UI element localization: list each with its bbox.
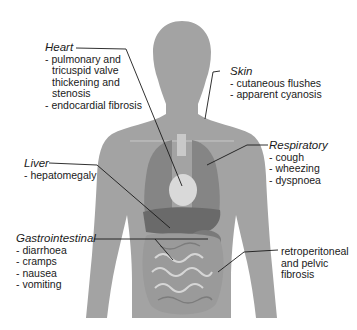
liver-title: Liver bbox=[24, 157, 96, 170]
gastrointestinal-symptom: - cramps bbox=[16, 256, 96, 268]
heart-symptom: - endocardial fibrosis bbox=[45, 100, 142, 112]
head-shape bbox=[153, 21, 211, 118]
anatomy-diagram: Heart - pulmonary and tricuspid valve th… bbox=[0, 0, 357, 330]
liver-symptom: - hepatomegaly bbox=[24, 170, 96, 182]
heart-label: Heart - pulmonary and tricuspid valve th… bbox=[45, 41, 142, 111]
retroperitoneal-text: retroperitoneal bbox=[281, 246, 349, 258]
respiratory-label: Respiratory - cough - wheezing - dyspnoe… bbox=[269, 139, 328, 186]
skin-leader bbox=[205, 71, 220, 119]
retroperitoneal-label: retroperitoneal and pelvic fibrosis bbox=[281, 246, 349, 281]
respiratory-symptom: - dyspnoea bbox=[269, 175, 328, 187]
respiratory-symptom: - wheezing bbox=[269, 163, 328, 175]
gastrointestinal-title: Gastrointestinal bbox=[16, 232, 96, 245]
gastrointestinal-symptom: - vomiting bbox=[16, 279, 96, 291]
skin-symptom: - apparent cyanosis bbox=[230, 89, 322, 101]
skin-label: Skin - cutaneous flushes - apparent cyan… bbox=[230, 65, 322, 101]
heart-symptom: stenosis bbox=[45, 88, 142, 100]
heart-organ bbox=[169, 174, 197, 206]
trachea bbox=[177, 134, 186, 156]
liver-label: Liver - hepatomegaly bbox=[24, 157, 96, 181]
heart-title: Heart bbox=[45, 41, 142, 54]
gastrointestinal-label: Gastrointestinal - diarrhoea - cramps - … bbox=[16, 232, 96, 291]
skin-title: Skin bbox=[230, 65, 322, 78]
retroperitoneal-text: fibrosis bbox=[281, 269, 349, 281]
respiratory-title: Respiratory bbox=[269, 139, 328, 152]
heart-symptom: tricuspid valve bbox=[45, 65, 142, 77]
